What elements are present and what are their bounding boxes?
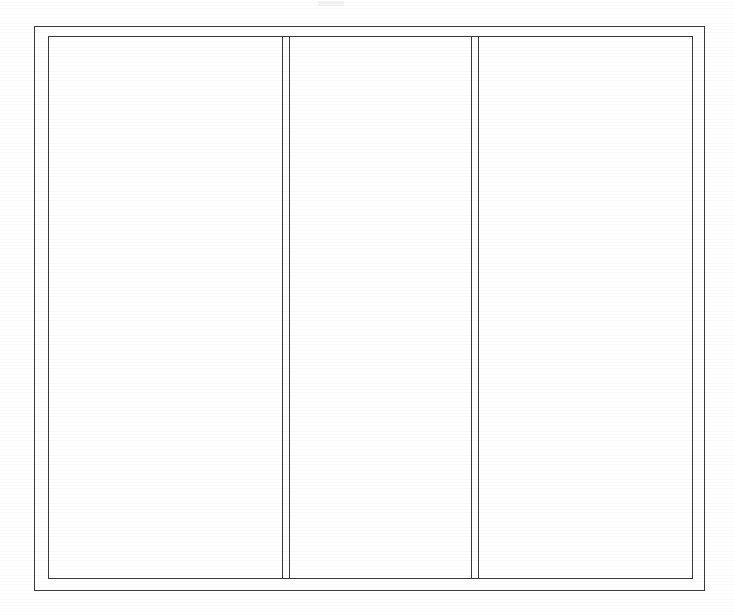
fold-divider-2-line-b — [478, 36, 479, 579]
panel-left — [49, 37, 283, 578]
fold-divider-1-line-a — [282, 36, 283, 579]
panel-center — [283, 37, 465, 578]
fold-divider-1 — [282, 36, 290, 579]
fold-divider-2 — [471, 36, 479, 579]
inner-border-frame — [48, 36, 693, 579]
fold-divider-2-line-a — [471, 36, 472, 579]
page-root — [0, 0, 734, 615]
fold-divider-1-line-b — [289, 36, 290, 579]
scan-artifact-icon — [318, 1, 344, 6]
panel-right — [465, 37, 678, 578]
